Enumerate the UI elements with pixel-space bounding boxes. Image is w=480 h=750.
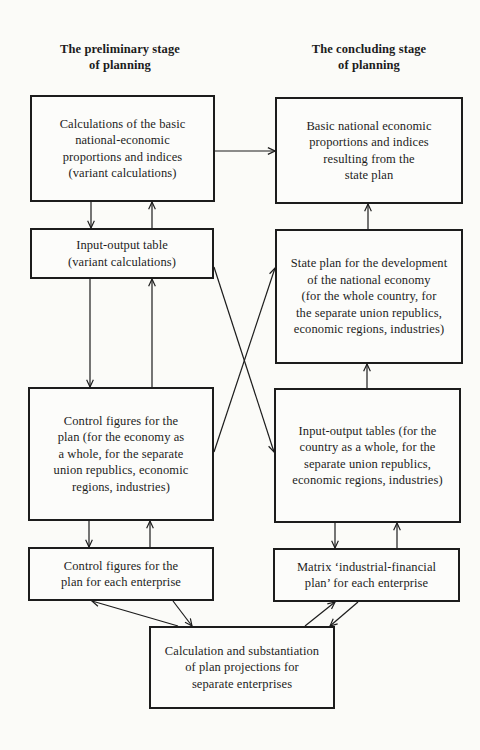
- box-state-plan: State plan for the development of the na…: [275, 229, 463, 364]
- box-input-output-table-variant: Input-output table (variant calculations…: [30, 228, 214, 279]
- box-control-figures-enterprise: Control figures for the plan for each en…: [28, 547, 214, 601]
- box-label: Calculations of the basic national-econo…: [60, 116, 186, 182]
- arrow-matrix-to-calc-enterprise: [330, 602, 358, 626]
- heading-preliminary-stage: The preliminary stage of planning: [20, 42, 220, 73]
- box-calculation-substantiation: Calculation and substantiation of plan p…: [149, 626, 335, 709]
- arrow-calc-enterprise-to-matrix: [305, 602, 335, 626]
- box-label: Control figures for the plan for each en…: [61, 558, 181, 591]
- box-basic-proportions-result: Basic national economic proportions and …: [275, 97, 463, 204]
- arrow-control-enterprise-to-calc-enterprise: [173, 601, 192, 626]
- box-label: Matrix ‘industrial-financial plan’ for e…: [297, 559, 436, 592]
- box-input-output-tables: Input-output tables (for the country as …: [274, 388, 461, 523]
- box-control-figures-plan: Control figures for the plan (for the ec…: [28, 387, 214, 521]
- arrow-control-figures-to-state-plan: [214, 268, 275, 452]
- box-matrix-industrial-financial-plan: Matrix ‘industrial-financial plan’ for e…: [273, 548, 460, 602]
- box-label: State plan for the development of the na…: [291, 255, 447, 338]
- arrow-calc-enterprise-to-control-enterprise: [92, 601, 178, 626]
- box-label: Control figures for the plan (for the ec…: [54, 413, 189, 496]
- box-label: Basic national economic proportions and …: [306, 118, 431, 184]
- box-calculations-basic-proportions: Calculations of the basic national-econo…: [30, 95, 215, 202]
- box-label: Calculation and substantiation of plan p…: [165, 643, 319, 693]
- heading-concluding-stage: The concluding stage of planning: [269, 42, 469, 73]
- arrow-io-variant-to-io-tables: [214, 267, 274, 452]
- box-label: Input-output tables (for the country as …: [292, 423, 442, 489]
- box-label: Input-output table (variant calculations…: [68, 237, 176, 270]
